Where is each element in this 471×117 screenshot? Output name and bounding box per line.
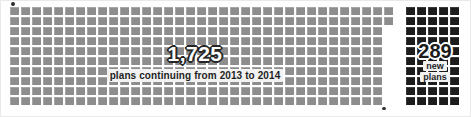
pictogram-cell-continuing [285,27,294,35]
pictogram-cell-continuing [10,47,19,55]
pictogram-cell-continuing [274,37,283,45]
pictogram-cell-continuing [164,67,173,75]
pictogram-cell-continuing [329,67,338,75]
pictogram-cell-continuing [54,97,63,105]
pictogram-cell-continuing [219,87,228,95]
pictogram-cell-new [439,17,448,25]
pictogram-cell-continuing [219,17,228,25]
pictogram-cell-continuing [263,57,272,65]
pictogram-cell-continuing [76,97,85,105]
pictogram-cell-continuing [43,57,52,65]
pictogram-cell-continuing [329,17,338,25]
pictogram-cell-continuing [153,27,162,35]
pictogram-cell-continuing [263,7,272,15]
pictogram-cell-continuing [32,37,41,45]
pictogram-cell-continuing [230,7,239,15]
pictogram-cell-continuing [65,77,74,85]
pictogram-cell-continuing [362,67,371,75]
pictogram-cell-continuing [175,7,184,15]
pictogram-cell-continuing [307,87,316,95]
pictogram-cell-new [450,7,459,15]
pictogram-cell-continuing [362,17,371,25]
pictogram-cell-continuing [285,47,294,55]
pictogram-cell-continuing [274,77,283,85]
pictogram-cell-continuing [384,17,393,25]
pictogram-cell-new [439,67,448,75]
pictogram-cell-continuing [318,47,327,55]
pictogram-cell-continuing [241,27,250,35]
pictogram-row [10,17,395,25]
pictogram-cell-continuing [340,47,349,55]
pictogram-cell-continuing [120,17,129,25]
pictogram-cell-continuing [252,27,261,35]
pictogram-cell-continuing [175,77,184,85]
registration-dot-bottom [382,107,386,110]
pictogram-cell-continuing [87,7,96,15]
pictogram-cell-continuing [32,67,41,75]
pictogram-cell-continuing [230,87,239,95]
pictogram-cell-continuing [340,77,349,85]
pictogram-cell-continuing [120,7,129,15]
pictogram-cell-continuing [32,77,41,85]
pictogram-row [406,37,461,45]
pictogram-cell-continuing [274,47,283,55]
pictogram-cell-continuing [76,47,85,55]
pictogram-cell-continuing [43,87,52,95]
pictogram-cell-continuing [340,67,349,75]
pictogram-cell-new [417,27,426,35]
pictogram-cell-new [439,7,448,15]
pictogram-cell-new [439,57,448,65]
pictogram-cell-continuing [351,97,360,105]
pictogram-cell-continuing [373,67,382,75]
pictogram-cell-continuing [76,27,85,35]
pictogram-cell-continuing [230,37,239,45]
pictogram-cell-continuing [285,17,294,25]
pictogram-cell-new [450,67,459,75]
pictogram-row [406,7,461,15]
pictogram-cell-continuing [208,37,217,45]
pictogram-cell-continuing [10,97,19,105]
pictogram-cell-continuing [230,97,239,105]
pictogram-cell-continuing [76,87,85,95]
pictogram-cell-continuing [131,47,140,55]
pictogram-cell-continuing [362,77,371,85]
pictogram-cell-continuing [241,57,250,65]
pictogram-cell-continuing [351,67,360,75]
pictogram-cell-continuing [307,37,316,45]
pictogram-cell-continuing [263,67,272,75]
pictogram-cell-continuing [98,7,107,15]
pictogram-cell-continuing [120,57,129,65]
pictogram-cell-new [450,37,459,45]
pictogram-cell-continuing [373,17,382,25]
pictogram-cell-continuing [54,27,63,35]
pictogram-cell-continuing [153,37,162,45]
pictogram-cell-continuing [318,27,327,35]
pictogram-cell-continuing [263,47,272,55]
pictogram-cell-continuing [241,17,250,25]
pictogram-cell-continuing [164,57,173,65]
pictogram-cell-continuing [131,27,140,35]
pictogram-cell-continuing [340,97,349,105]
pictogram-cell-continuing [153,77,162,85]
pictogram-row [406,87,461,95]
registration-dot-top [11,2,15,6]
pictogram-cell-continuing [76,67,85,75]
pictogram-cell-continuing [109,57,118,65]
pictogram-cell-continuing [241,37,250,45]
pictogram-cell-continuing [340,7,349,15]
pictogram-cell-continuing [153,17,162,25]
pictogram-cell-continuing [318,17,327,25]
pictogram-cell-continuing [109,27,118,35]
pictogram-cell-continuing [296,37,305,45]
pictogram-cell-continuing [373,27,382,35]
pictogram-cell-continuing [98,97,107,105]
pictogram-cell-continuing [307,57,316,65]
pictogram-cell-continuing [307,77,316,85]
pictogram-cell-new [406,7,415,15]
pictogram-cell-new [450,27,459,35]
pictogram-cell-continuing [318,87,327,95]
pictogram-cell-continuing [109,77,118,85]
pictogram-cell-continuing [274,57,283,65]
pictogram-cell-continuing [175,27,184,35]
pictogram-row [406,57,461,65]
